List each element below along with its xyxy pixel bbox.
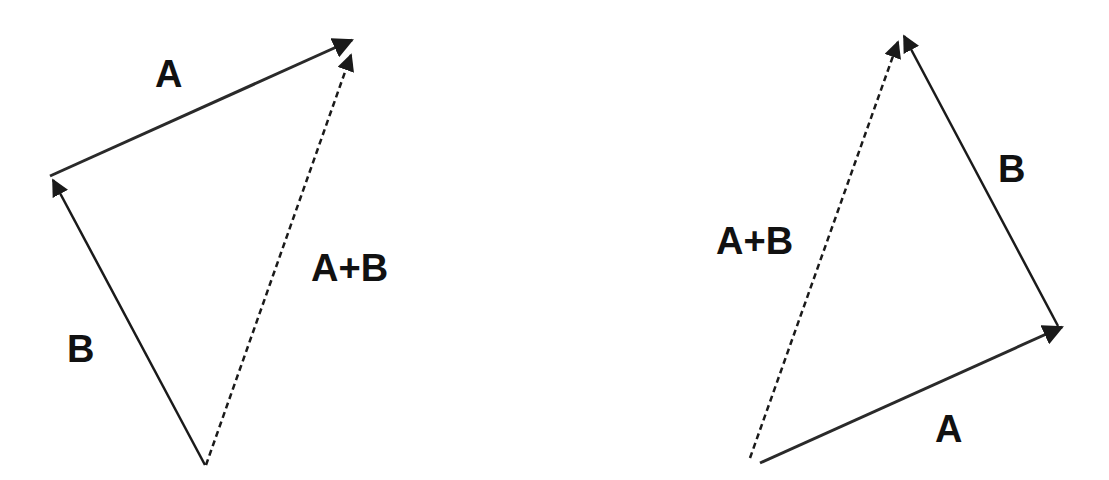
vector-a-arrow xyxy=(50,40,352,176)
label-b: B xyxy=(67,330,94,368)
vector-a-arrow xyxy=(760,327,1062,463)
label-a-plus-b: A+B xyxy=(716,222,793,260)
label-a-plus-b: A+B xyxy=(311,249,388,287)
vector-b-arrow xyxy=(53,180,205,465)
label-b: B xyxy=(998,150,1025,188)
label-a: A xyxy=(155,55,182,93)
label-a: A xyxy=(935,410,962,448)
left-diagram xyxy=(50,40,352,465)
vector-b-arrow xyxy=(904,36,1058,326)
right-diagram xyxy=(750,36,1062,463)
